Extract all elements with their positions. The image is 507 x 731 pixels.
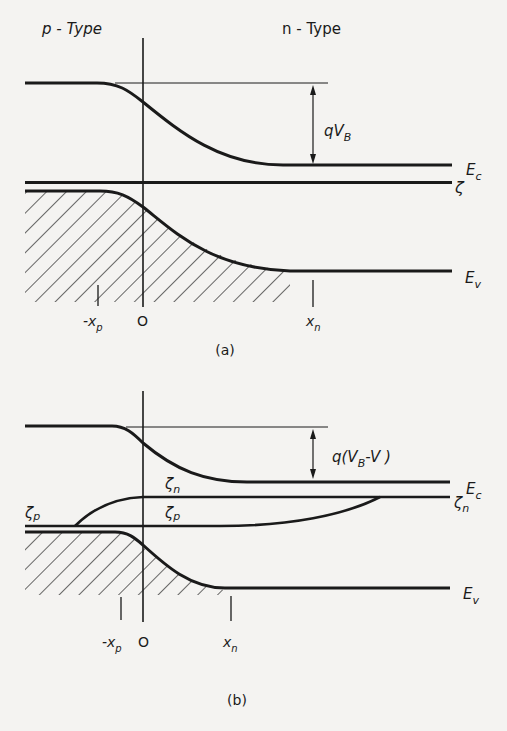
caption-a: (a): [215, 342, 235, 358]
ec-label-a: Ec: [466, 161, 482, 183]
panel-b: q(VB-V ) ζn ζp ζp ζn Ec Ev -xp O xn (b): [24, 391, 482, 708]
p-type-label: p - Type: [41, 20, 102, 38]
origin-label-a: O: [137, 313, 148, 329]
xn-label-b: xn: [222, 634, 238, 654]
quasi-fermi-n-b: [75, 497, 450, 526]
arrow-head-up-icon: [310, 429, 316, 439]
panel-a: p - Type n - Type qVB Ec ζ Ev -xp O xn (…: [25, 20, 482, 358]
origin-label-b: O: [138, 634, 149, 650]
arrow-head-up-icon: [310, 85, 316, 95]
valence-fill-hatch-a: [25, 191, 290, 302]
neg-xp-label-a: -xp: [83, 313, 103, 333]
xn-label-a: xn: [305, 313, 321, 333]
zeta-p-mid-label: ζp: [164, 504, 180, 523]
arrow-head-down-icon: [310, 154, 316, 164]
conduction-band-a: [25, 83, 452, 165]
ec-label-b: Ec: [466, 480, 482, 502]
zeta-p-left-label: ζp: [24, 504, 40, 523]
ev-label-b: Ev: [463, 585, 479, 607]
neg-xp-label-b: -xp: [102, 634, 122, 654]
valence-fill-hatch-b: [25, 532, 230, 595]
barrier-label-a: qVB: [324, 122, 351, 144]
ev-label-a: Ev: [465, 269, 481, 291]
band-diagram-svg: p - Type n - Type qVB Ec ζ Ev -xp O xn (…: [0, 0, 507, 731]
zeta-n-mid-label: ζn: [164, 475, 180, 496]
caption-b: (b): [227, 692, 247, 708]
band-diagram-figure: p - Type n - Type qVB Ec ζ Ev -xp O xn (…: [0, 0, 507, 731]
arrow-head-down-icon: [310, 469, 316, 479]
n-type-label: n - Type: [282, 20, 341, 38]
fermi-label-a: ζ: [454, 178, 465, 197]
barrier-label-b: q(VB-V ): [332, 448, 391, 470]
